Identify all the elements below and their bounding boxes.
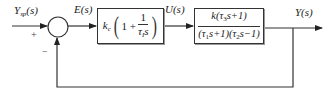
controller-open-paren: (	[114, 13, 119, 39]
integral-denominator: τIs	[138, 25, 149, 42]
controller-close-paren: )	[151, 13, 156, 39]
controller-gain: kc	[103, 19, 111, 33]
integral-numerator: 1	[138, 11, 148, 25]
plant-block: k(τ3s+1) (τ1s+1)(τ2s−1)	[194, 8, 264, 44]
output-label: Y(s)	[295, 7, 313, 18]
controller-one-plus: 1 +	[121, 20, 135, 32]
error-label: E(s)	[74, 4, 92, 15]
plus-sign: +	[31, 30, 37, 40]
controller-block: kc ( 1 + 1 τIs )	[97, 8, 164, 44]
control-label: U(s)	[165, 4, 185, 15]
plant-numerator: k(τ3s+1)	[209, 9, 248, 26]
controller-integral-fraction: 1 τIs	[138, 11, 149, 42]
summing-junction	[48, 17, 68, 37]
plant-denominator: (τ1s+1)(τ2s−1)	[198, 27, 259, 44]
setpoint-label-arg: (s)	[26, 4, 38, 16]
minus-sign: −	[42, 47, 48, 57]
setpoint-label: Ysp(s)	[14, 5, 38, 18]
